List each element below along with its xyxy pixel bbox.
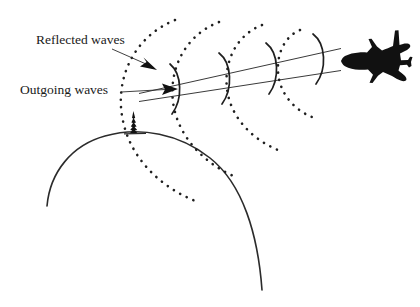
outgoing-wavefront-3: [266, 43, 277, 94]
airplane-silhouette: [341, 30, 413, 83]
radar-diagram: Reflected waves Outgoing waves: [0, 0, 420, 307]
reflected-wavefront-1: [278, 30, 312, 117]
outgoing-wavefront-4: [313, 34, 324, 84]
airplane-icon: [341, 30, 413, 83]
earth-group: [47, 132, 262, 290]
reflected-wavefront-4: [121, 20, 198, 202]
reflected-waves-label: Reflected waves: [36, 32, 125, 47]
outgoing-wavefronts: [170, 34, 324, 114]
reflected-wavefronts: [121, 20, 312, 202]
outgoing-waves-label: Outgoing waves: [20, 82, 108, 97]
radar-antenna: [124, 111, 146, 134]
reflected-wavefront-2: [226, 25, 278, 150]
radar-beam-lines: [139, 49, 341, 102]
radar-diagram-canvas: Reflected waves Outgoing waves: [0, 0, 420, 307]
outgoing-waves-leader-line: [121, 90, 165, 93]
reflected-waves-arrowhead-icon: [140, 58, 157, 71]
beam-line-lower: [139, 71, 341, 102]
outgoing-wavefront-2: [219, 53, 230, 104]
reflected-waves-leader-line: [112, 49, 146, 64]
earth-curve: [47, 132, 262, 290]
outgoing-waves-pointer: [121, 84, 178, 96]
antenna-mast-icon: [130, 111, 138, 133]
